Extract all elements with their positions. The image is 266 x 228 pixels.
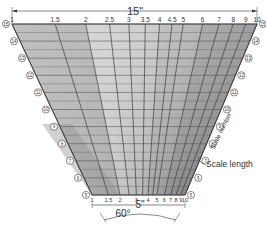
- bottom-scale-label: 1.5: [105, 197, 113, 203]
- top-scale-labels: 11.522.533.544.55678910: [10, 16, 261, 23]
- svg-text:12: 12: [239, 73, 245, 78]
- top-scale-label: 1.5: [51, 16, 60, 23]
- svg-text:12: 12: [27, 73, 33, 78]
- top-scale-label: 2: [84, 16, 88, 23]
- svg-text:10: 10: [43, 107, 49, 112]
- bottom-scale-label: 8: [174, 197, 177, 203]
- svg-text:14: 14: [253, 39, 259, 44]
- top-scale-label: 5: [181, 16, 185, 23]
- top-scale-label: 3.5: [141, 16, 150, 23]
- slide-rule-trapezoid-diagram: 11.522.533.544.55678910 11.52345678910 1…: [0, 0, 266, 228]
- svg-text:13: 13: [246, 56, 252, 61]
- top-scale-label: 4: [158, 16, 162, 23]
- svg-text:11: 11: [36, 90, 41, 95]
- svg-text:11: 11: [232, 90, 237, 95]
- bottom-scale-label: 7: [169, 197, 172, 203]
- svg-text:13: 13: [19, 56, 25, 61]
- bottom-dimension-label: 5": [135, 199, 145, 210]
- scale-length-annotation: Scale length: [206, 159, 253, 169]
- bottom-scale-label: 1: [90, 197, 93, 203]
- bottom-scale-label: 2: [118, 197, 121, 203]
- angle-label: 60°: [115, 208, 130, 219]
- top-scale-label: 8: [231, 16, 235, 23]
- top-scale-label: 4.5: [168, 16, 177, 23]
- bottom-scale-label: 10: [182, 197, 188, 203]
- svg-text:14: 14: [11, 39, 17, 44]
- top-scale-label: 2.5: [105, 16, 114, 23]
- bottom-scale-label: 4: [146, 197, 149, 203]
- top-scale-label: 7: [217, 16, 221, 23]
- top-dimension-label: 15": [127, 5, 143, 17]
- top-scale-label: 9: [244, 16, 248, 23]
- top-scale-label: 6: [201, 16, 205, 23]
- bottom-scale-label: 6: [163, 197, 166, 203]
- bottom-scale-label: 5: [155, 197, 158, 203]
- svg-text:15: 15: [260, 22, 266, 27]
- svg-text:15: 15: [3, 22, 9, 27]
- top-scale-label: 3: [127, 16, 131, 23]
